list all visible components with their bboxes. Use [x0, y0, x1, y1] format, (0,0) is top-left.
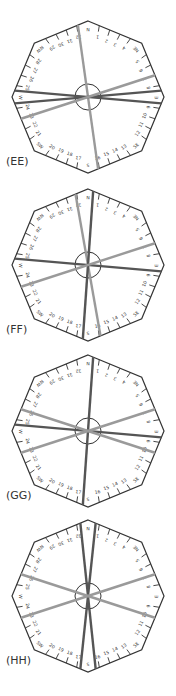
compass-point-label: 24	[25, 603, 31, 610]
compass-point-label: W	[18, 594, 23, 599]
compass-point-label: N	[86, 526, 89, 531]
compass-panel: N1234NE5678E9101112SE13141516S17181920SW…	[0, 0, 176, 696]
panel-label: (HH)	[6, 654, 31, 667]
compass-point-label: E	[154, 595, 159, 598]
compass-point-label: S	[87, 662, 90, 667]
compass-point-label: 25	[25, 584, 31, 591]
compass-octagon-diagram: N1234NE5678E9101112SE13141516S17181920SW…	[0, 0, 176, 696]
